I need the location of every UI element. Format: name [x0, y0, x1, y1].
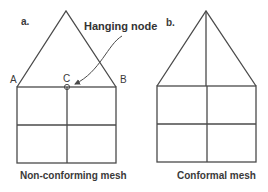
non-conforming-mesh	[17, 11, 122, 163]
caption-conformal: Conformal mesh	[177, 170, 256, 181]
point-label-c: C	[63, 73, 70, 84]
point-label-b: B	[120, 74, 127, 85]
panel-label-b: b.	[166, 17, 175, 28]
caption-non-conforming: Non-conforming mesh	[20, 170, 127, 181]
panel-label-a: a.	[21, 16, 29, 27]
hanging-node-annotation: Hanging node	[84, 20, 157, 32]
point-label-a: A	[10, 74, 17, 85]
conformal-mesh	[157, 11, 256, 162]
